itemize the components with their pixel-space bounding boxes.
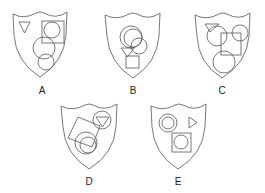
shield-e: E [151,104,206,187]
label-b: B [130,85,137,96]
circle-icon [38,54,54,70]
square-icon [126,56,139,68]
label-e: E [175,176,182,187]
shield-a: A [13,12,67,96]
shield-figure: A B C D E [0,0,265,193]
circle-icon [80,137,96,153]
square-icon [221,33,241,55]
circle-icon [131,38,147,54]
shield-d: D [61,104,117,187]
shield-b: B [105,13,160,96]
label-d: D [85,176,92,187]
triangle-icon [205,24,219,32]
triangle-icon [19,22,30,33]
shield-c: C [195,13,250,96]
circle-icon [33,37,55,59]
label-a: A [39,85,46,96]
circle-icon [162,117,174,129]
square-icon [42,21,64,43]
triangle-icon [189,117,197,128]
circle-icon [213,51,235,73]
circle-icon [44,22,60,38]
circle-icon [174,135,188,149]
label-c: C [218,85,225,96]
circle-icon [207,26,227,46]
